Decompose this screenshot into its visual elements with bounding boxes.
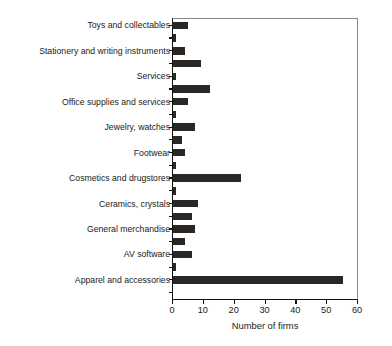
category-label: AV software [124,249,170,259]
x-axis-tick [326,300,327,304]
category-label: Cosmetics and drugstores [69,173,170,183]
x-axis-tick-label: 50 [321,305,331,316]
category-label: Ceramics, crystals [99,199,170,209]
x-axis-ticks: 0102030405060 [172,300,358,320]
x-axis-tick-label: 60 [352,305,362,316]
x-axis-tick [234,300,235,304]
x-axis-tick-label: 0 [169,305,174,316]
category-label: Apparel and accessories [75,275,170,285]
category-labels-layer: Toys and collectablesStationery and writ… [0,19,392,299]
x-axis-tick-label: 20 [229,305,239,316]
x-axis-tick [265,300,266,304]
x-axis-tick-label: 30 [259,305,269,316]
x-axis-tick [357,300,358,304]
category-label: Footwear [134,148,170,158]
x-axis-tick-label: 10 [198,305,208,316]
category-label: General merchandise [87,224,170,234]
bar-chart: Toys and collectablesStationery and writ… [0,0,392,346]
category-label: Jewelry, watches [105,122,171,132]
x-axis-tick [172,300,173,304]
x-axis-title: Number of firms [172,320,358,331]
x-axis-tick [203,300,204,304]
x-axis-tick [295,300,296,304]
x-axis-tick-label: 40 [290,305,300,316]
category-label: Services [137,71,170,81]
category-label: Office supplies and services [62,97,170,107]
category-label: Stationery and writing instruments [39,46,170,56]
category-label: Toys and collectables [87,20,170,30]
